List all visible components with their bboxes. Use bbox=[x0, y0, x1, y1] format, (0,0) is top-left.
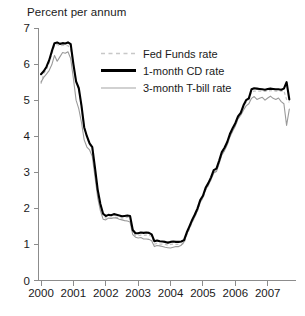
y-tick-label-2: 2 bbox=[24, 202, 30, 214]
y-tick-label-7: 7 bbox=[24, 22, 30, 34]
legend-label-fed-funds-rate: Fed Funds rate bbox=[143, 48, 218, 60]
x-tick-label-2002: 2002 bbox=[93, 287, 119, 299]
x-axis-ticks: 20002001200220032004200520062007 bbox=[28, 281, 280, 300]
y-tick-label-0: 0 bbox=[24, 275, 30, 287]
x-tick-label-2006: 2006 bbox=[223, 287, 249, 299]
y-tick-label-3: 3 bbox=[24, 166, 30, 178]
x-tick-label-2000: 2000 bbox=[28, 287, 54, 299]
x-tick-label-2001: 2001 bbox=[61, 287, 87, 299]
page-bottom-artifact bbox=[0, 300, 305, 316]
y-tick-label-6: 6 bbox=[24, 58, 30, 70]
x-tick-label-2003: 2003 bbox=[125, 287, 151, 299]
legend-label-1-month-cd-rate: 1-month CD rate bbox=[143, 65, 224, 77]
x-tick-label-2004: 2004 bbox=[158, 287, 184, 299]
chart-legend: Fed Funds rate 1-month CD rate 3-month T… bbox=[101, 48, 231, 95]
chart-plot-area: 01234567 2000200120022003200420052006200… bbox=[0, 0, 305, 316]
y-axis-ticks: 01234567 bbox=[24, 22, 39, 287]
chart-container: Percent per annum 01234567 2000200120022… bbox=[0, 0, 305, 316]
y-tick-label-4: 4 bbox=[24, 130, 31, 142]
x-tick-label-2005: 2005 bbox=[190, 287, 216, 299]
y-tick-label-1: 1 bbox=[24, 238, 30, 250]
x-tick-label-2007: 2007 bbox=[255, 287, 281, 299]
y-tick-label-5: 5 bbox=[24, 94, 30, 106]
legend-label-3-month-t-bill-rate: 3-month T-bill rate bbox=[143, 82, 231, 94]
